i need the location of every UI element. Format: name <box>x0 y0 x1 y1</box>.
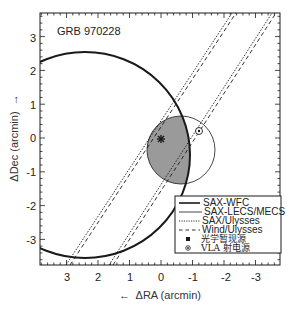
y-tick-label: -2 <box>26 200 36 212</box>
chart-title: GRB 970228 <box>57 25 121 37</box>
x-tick-label: 0 <box>158 271 164 283</box>
x-tick-label: -3 <box>251 271 261 283</box>
x-axis-title: ← ΔRA (arcmin) <box>119 289 201 301</box>
vla-radio-marker <box>196 128 203 135</box>
legend: SAX-WFC SAX-LECS/MECS SAX/Ulysses Wind/U… <box>175 196 285 253</box>
x-tick-labels: 3 2 1 0 -1 -2 -3 <box>64 271 261 283</box>
x-tick-label: -1 <box>188 271 198 283</box>
x-tick-label: 1 <box>127 271 133 283</box>
optical-transient-marker <box>157 135 165 143</box>
y-tick-label: -3 <box>26 234 36 246</box>
legend-label: VLA 射电源 <box>200 242 250 253</box>
x-tick-label: 2 <box>95 271 101 283</box>
y-tick-labels: 3 2 1 0 -1 -2 -3 <box>26 32 36 246</box>
legend-swatch-vla-radio <box>186 246 191 251</box>
x-tick-label: 3 <box>64 271 70 283</box>
legend-swatch-optical-transient <box>186 237 190 241</box>
y-tick-label: 2 <box>30 65 36 77</box>
y-axis-title: ΔDec (arcmin) → <box>8 94 20 181</box>
chart-canvas: GRB 970228 3 2 1 0 -1 -2 -3 3 2 1 0 -1 -… <box>0 0 291 310</box>
y-tick-label: -1 <box>26 166 36 178</box>
y-tick-label: 1 <box>30 99 36 111</box>
y-tick-label: 0 <box>30 132 36 144</box>
y-tick-label: 3 <box>30 32 36 44</box>
x-tick-label: -2 <box>221 271 231 283</box>
